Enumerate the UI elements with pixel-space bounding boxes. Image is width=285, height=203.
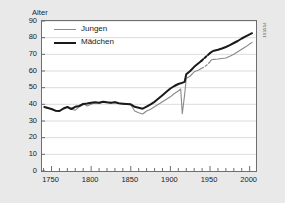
figure-container: Alter 0102030405060708090 17501800185019…	[0, 0, 285, 203]
y-axis-tick-label: 30	[17, 116, 37, 125]
x-axis-tick-label: 1800	[75, 175, 105, 184]
series-line-m-dchen-post-war	[210, 33, 252, 53]
y-axis-tick-label: 0	[17, 166, 37, 175]
legend-label-jungen: Jungen	[81, 24, 107, 33]
x-axis-tick-label: 1900	[154, 175, 184, 184]
series-line-dashed-gap	[201, 63, 209, 69]
legend-swatch-m-dchen	[54, 42, 76, 44]
x-axis-tick-label: 1950	[194, 175, 224, 184]
y-axis-tick-label: 80	[17, 32, 37, 41]
y-axis-tick-label: 50	[17, 82, 37, 91]
legend-label-m-dchen: Mädchen	[81, 37, 114, 46]
y-axis-tick-label: 40	[17, 99, 37, 108]
series-line-m-dchen	[44, 61, 201, 111]
y-axis-tick-label: 70	[17, 49, 37, 58]
y-axis-tick-label: 20	[17, 132, 37, 141]
y-axis-tick-label: 10	[17, 149, 37, 158]
figure-side-code: 103554	[262, 22, 267, 38]
x-axis-tick-label: 1850	[115, 175, 145, 184]
x-axis-tick-label: 2000	[234, 175, 264, 184]
y-axis-tick-label: 90	[17, 16, 37, 25]
y-axis-tick-label: 60	[17, 66, 37, 75]
x-axis-tick-label: 1750	[36, 175, 66, 184]
legend-swatch-jungen	[54, 29, 76, 30]
